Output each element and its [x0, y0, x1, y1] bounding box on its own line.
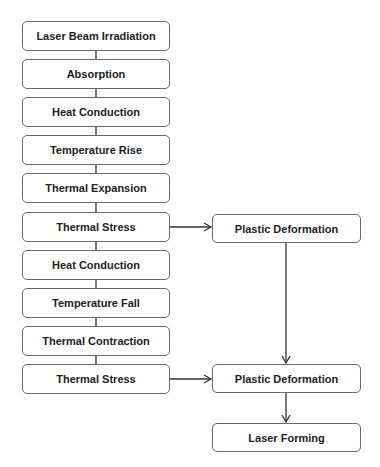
- node-label: Absorption: [67, 68, 126, 80]
- node-label: Laser Forming: [248, 432, 324, 444]
- node-temperature-rise: Temperature Rise: [22, 135, 170, 165]
- node-thermal-expansion: Thermal Expansion: [22, 173, 170, 203]
- node-thermal-stress-2: Thermal Stress: [22, 364, 170, 394]
- node-thermal-stress-1: Thermal Stress: [22, 212, 170, 242]
- node-thermal-contraction: Thermal Contraction: [22, 326, 170, 356]
- node-label: Heat Conduction: [52, 106, 140, 118]
- node-label: Plastic Deformation: [235, 223, 338, 235]
- node-label: Thermal Contraction: [42, 335, 150, 347]
- node-label: Laser Beam Irradiation: [36, 30, 155, 42]
- node-heat-conduction-2: Heat Conduction: [22, 250, 170, 280]
- node-label: Heat Conduction: [52, 259, 140, 271]
- node-heat-conduction-1: Heat Conduction: [22, 97, 170, 127]
- node-label: Thermal Stress: [56, 221, 135, 233]
- node-label: Temperature Rise: [50, 144, 142, 156]
- flowchart-canvas: Laser Beam Irradiation Absorption Heat C…: [0, 0, 380, 467]
- node-label: Thermal Stress: [56, 373, 135, 385]
- node-label: Plastic Deformation: [235, 373, 338, 385]
- node-absorption: Absorption: [22, 59, 170, 89]
- node-plastic-deformation-2: Plastic Deformation: [212, 364, 361, 393]
- node-plastic-deformation-1: Plastic Deformation: [212, 214, 361, 243]
- node-temperature-fall: Temperature Fall: [22, 288, 170, 318]
- node-label: Temperature Fall: [52, 297, 140, 309]
- node-laser-forming: Laser Forming: [212, 423, 361, 452]
- node-label: Thermal Expansion: [45, 182, 146, 194]
- node-laser-beam-irradiation: Laser Beam Irradiation: [22, 21, 170, 51]
